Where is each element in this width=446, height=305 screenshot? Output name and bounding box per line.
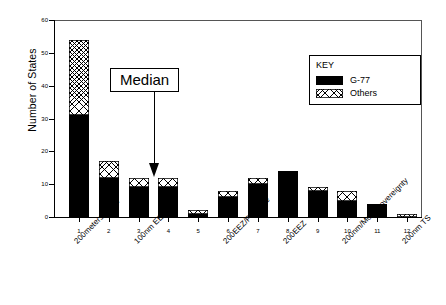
median-annotation-box: Median [110,68,179,92]
plot-area: 0102030405060 [54,20,422,218]
x-tick [288,217,289,222]
bar-segment-g77 [69,115,89,217]
bar-segment-g77 [129,187,149,217]
y-tick-label: 60 [32,17,48,23]
median-arrow-head-icon [149,163,159,177]
bar-column [278,171,298,217]
legend-item-others: Others [316,88,414,98]
x-tick [198,217,199,222]
y-tick-label: 20 [32,148,48,154]
legend-item-g77: G-77 [316,75,414,85]
x-tick-label: 5 [191,228,205,234]
legend-label-g77: G-77 [350,75,370,85]
bar-column [337,191,357,217]
x-tick [407,217,408,222]
x-tick [377,217,378,222]
bar-column [129,178,149,217]
y-tick-label: 0 [32,214,48,220]
y-tick-label: 40 [32,83,48,89]
x-tick-label: 2 [102,228,116,234]
bar-segment-g77 [278,171,298,217]
legend: KEY G-77 Others [309,55,421,105]
bar-segment-g77 [308,191,328,217]
x-tick-label: 9 [311,228,325,234]
x-tick [347,217,348,222]
bar-segment-others [99,161,119,177]
y-tick-label: 30 [32,116,48,122]
legend-title: KEY [316,60,414,71]
y-tick-label: 10 [32,181,48,187]
y-axis-title: Number of States [26,10,38,170]
x-tick [228,217,229,222]
legend-swatch-others-icon [316,89,343,98]
x-tick [318,217,319,222]
chart-figure: Number of States 0102030405060 123456789… [0,0,446,305]
bar-segment-others [158,178,178,188]
x-tick [109,217,110,222]
x-tick-label: 7 [251,228,265,234]
bar-segment-others [129,178,149,188]
bar-segment-others [69,40,89,116]
x-tick [258,217,259,222]
median-arrow-line [154,92,155,166]
bar-column [69,40,89,217]
x-tick [79,217,80,222]
bar-series-group [54,20,422,217]
x-tick [168,217,169,222]
y-tick [49,217,54,218]
bar-column [308,187,328,217]
bar-column [218,191,238,217]
x-tick-label: 4 [161,228,175,234]
bar-segment-g77 [218,197,238,217]
bar-segment-others [337,191,357,201]
bar-segment-g77 [337,201,357,217]
x-tick-label: 11 [370,228,384,234]
legend-label-others: Others [350,88,377,98]
x-tick [139,217,140,222]
legend-swatch-g77-icon [316,76,343,85]
y-tick-label: 50 [32,50,48,56]
